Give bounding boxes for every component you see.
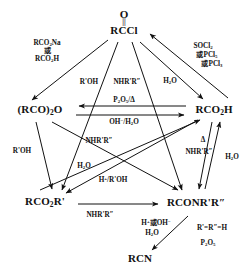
- label-h2o-mid: H2O: [77, 162, 91, 171]
- label-p2o5-bottom: P2O5: [201, 239, 216, 248]
- node-ester: RCO2R': [25, 195, 65, 209]
- label-h2o-right: H2O: [225, 153, 239, 162]
- node-amide: RCONR'R″: [167, 196, 225, 208]
- node-acyl-chloride: O || RCCl: [110, 10, 137, 35]
- label-nhrr-mid: NHR'R″: [85, 137, 112, 145]
- label-delta: Δ: [201, 136, 206, 144]
- label-nhrr-right: NHR'R″: [185, 148, 212, 156]
- label-socl2: SOCl2: [193, 42, 212, 51]
- label-p2o5-delta: P2O5/Δ: [113, 96, 134, 105]
- label-h2o-bottom: H2O: [145, 229, 159, 238]
- label-nhrr-top: NHR'R″: [113, 78, 140, 86]
- label-pcl3: 或PCl3: [201, 60, 222, 69]
- label-nhrr-bottom: NHR'R″: [86, 211, 113, 219]
- node-nitrile: RCN: [128, 252, 152, 264]
- acyl-chloride-label: RCCl: [110, 25, 137, 34]
- label-h2o-top: H2O: [163, 77, 177, 86]
- label-r-equals-h: R'=R″=H: [197, 224, 227, 232]
- label-rroh-top: R'OH: [80, 78, 98, 86]
- reaction-scheme-diagram: O || RCCl (RCO)2O RCO2H RCO2R' RCONR'R″ …: [0, 0, 250, 273]
- node-anhydride: (RCO)2O: [18, 103, 63, 117]
- node-carboxylic-acid: RCO2H: [195, 103, 232, 117]
- label-rroh-left: R'OH: [13, 147, 31, 155]
- label-acid-or-base: H+或OH−: [141, 219, 170, 227]
- label-hydroxide-water: OH−/H2O: [109, 118, 139, 127]
- label-acid-alcohol: H+/R'OH: [99, 176, 128, 184]
- label-rco2h: RCO2H: [35, 55, 59, 64]
- label-pcl5: 或PCl5: [196, 51, 217, 60]
